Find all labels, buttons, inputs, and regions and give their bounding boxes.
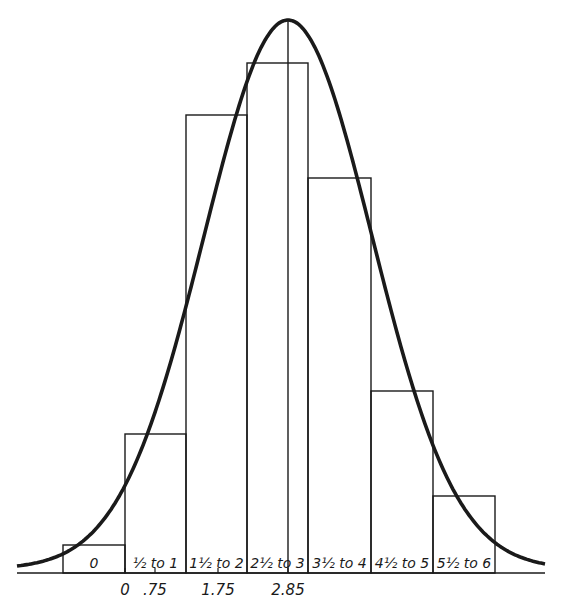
histogram-chart: 0½ to 11½ to 22½ to 33½ to 44½ to 55½ to… — [0, 0, 562, 615]
histogram-bar — [308, 178, 371, 573]
bar-category-label: 5½ to 6 — [437, 555, 491, 571]
x-tick-label: 0 — [120, 581, 130, 599]
normal-curve — [17, 20, 545, 566]
x-tick-label: .75 — [143, 581, 167, 599]
bar-category-label: 2½ to 3 — [250, 555, 304, 571]
bar-category-label: 4½ to 5 — [375, 555, 429, 571]
histogram-bars — [63, 63, 495, 573]
bar-category-label: 1½ to 2 — [189, 555, 243, 571]
bar-labels: 0½ to 11½ to 22½ to 33½ to 44½ to 55½ to… — [90, 555, 492, 571]
x-tick-label: 2.85 — [271, 581, 304, 599]
histogram-bar — [247, 63, 308, 573]
x-tick-label: 1.75 — [201, 581, 234, 599]
bar-category-label: 3½ to 4 — [312, 555, 366, 571]
bar-category-label: 0 — [90, 555, 99, 571]
histogram-bar — [125, 434, 186, 573]
